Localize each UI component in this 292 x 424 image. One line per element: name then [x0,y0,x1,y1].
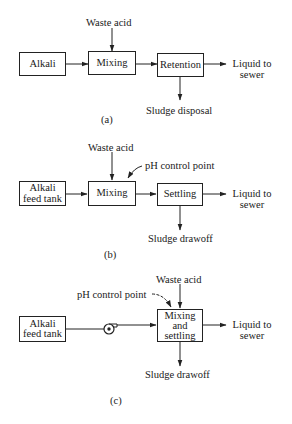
alkali-label-a: Alkali [29,59,55,70]
alkali-feed-tank-box-b: Alkali feed tank [19,181,66,206]
liquid-line-2: sewer [228,330,276,341]
sludge-drawoff-label-c: Sludge drawoff [145,369,210,380]
tank-line-2: and [172,321,187,331]
mixing-box-b: Mixing [88,181,136,206]
liquid-line-1: Liquid to [228,188,276,199]
ph-control-label-b: pH control point [145,160,214,171]
waste-acid-label-b: Waste acid [88,142,134,153]
caption-c: (c) [110,395,122,406]
waste-acid-label-a: Waste acid [86,17,132,28]
liquid-line-2: sewer [228,69,276,80]
liquid-to-sewer-label-c: Liquid to sewer [228,319,276,341]
retention-box-a: Retention [157,53,204,77]
caption-a: (a) [101,114,113,125]
mixing-settling-box-c: Mixing and settling [157,309,203,342]
alkali-feed-tank-box-c: Alkali feed tank [19,316,66,342]
settling-label-b: Settling [164,189,197,200]
mixing-box-a: Mixing [88,51,136,75]
tank-line-1: Mixing [165,311,196,321]
liquid-line-2: sewer [228,199,276,210]
ph-control-label-c: pH control point [77,289,146,300]
sludge-disposal-label: Sludge disposal [146,105,212,116]
mixing-label-a: Mixing [97,58,128,69]
waste-acid-label-c: Waste acid [156,274,202,285]
alkali-box-a: Alkali [19,52,66,76]
ph-leader-b [128,166,142,178]
feed-line-1: Alkali [29,183,55,194]
liquid-to-sewer-label-a: Liquid to sewer [228,58,276,80]
liquid-to-sewer-label-b: Liquid to sewer [228,188,276,210]
feed-line-2: feed tank [23,194,62,205]
tank-line-3: settling [165,331,196,341]
caption-b: (b) [104,249,116,260]
ph-leader-c [152,294,171,307]
mixing-label-b: Mixing [97,188,128,199]
liquid-line-1: Liquid to [228,319,276,330]
retention-label-a: Retention [160,60,201,71]
feed-line-2: feed tank [23,329,62,340]
pump-icon [104,324,117,334]
sludge-drawoff-label-b: Sludge drawoff [148,233,213,244]
liquid-line-1: Liquid to [228,58,276,69]
settling-box-b: Settling [157,183,203,206]
